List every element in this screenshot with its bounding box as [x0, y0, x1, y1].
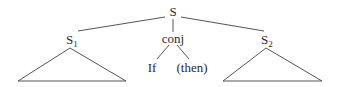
then-leaf-label: (then) — [176, 60, 207, 75]
conj-node-label: conj — [162, 31, 184, 46]
root-node-label: S — [169, 4, 176, 19]
s2-subscript: 2 — [268, 39, 273, 49]
s2-subtree-triangle — [223, 48, 322, 81]
edge-conj-to-if — [157, 45, 169, 59]
s1-label: S — [66, 32, 73, 47]
edge-conj-to-then — [177, 45, 189, 59]
s2-label: S — [261, 32, 268, 47]
s2-node-label: S2 — [261, 32, 273, 49]
s1-node-label: S1 — [66, 32, 78, 49]
edge-root-to-s1 — [78, 17, 165, 31]
syntax-tree-diagram: S S1 conj If (then) S2 — [0, 0, 338, 87]
s1-subscript: 1 — [73, 39, 78, 49]
if-leaf-label: If — [148, 60, 157, 75]
s1-subtree-triangle — [18, 48, 126, 81]
edge-root-to-s2 — [181, 17, 264, 31]
